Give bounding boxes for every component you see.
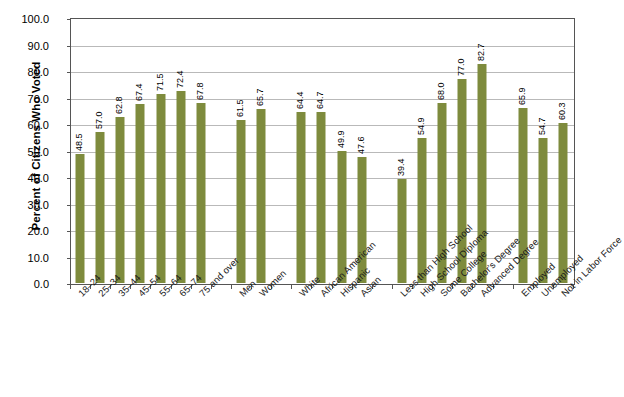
bar[interactable] bbox=[558, 123, 567, 283]
x-tick-mark bbox=[70, 284, 71, 289]
bar-value-label: 48.5 bbox=[74, 134, 84, 152]
bar-slot: 67.4 bbox=[130, 18, 150, 283]
x-tick-mark bbox=[513, 284, 514, 289]
y-tick-label: 90.0 bbox=[1, 40, 49, 52]
bar[interactable] bbox=[116, 117, 125, 283]
bar-value-label: 49.9 bbox=[336, 130, 346, 148]
bar[interactable] bbox=[176, 91, 185, 283]
bar-slot: 62.8 bbox=[110, 18, 130, 283]
bar[interactable] bbox=[418, 138, 427, 283]
bar-value-label: 47.6 bbox=[356, 136, 366, 154]
bar[interactable] bbox=[397, 179, 406, 283]
y-tick-label: 80.0 bbox=[1, 66, 49, 78]
bar-slot: 72.4 bbox=[171, 18, 191, 283]
bar-value-label: 67.4 bbox=[134, 84, 144, 102]
y-tick-label: 60.0 bbox=[1, 119, 49, 131]
bar-value-label: 65.9 bbox=[517, 88, 527, 106]
y-tick-label: 50.0 bbox=[1, 146, 49, 158]
y-tick-label: 30.0 bbox=[1, 199, 49, 211]
bar[interactable] bbox=[297, 112, 306, 283]
bar[interactable] bbox=[156, 94, 165, 283]
bar[interactable] bbox=[317, 112, 326, 283]
bar-value-label: 65.7 bbox=[255, 88, 265, 106]
y-tick-label: 40.0 bbox=[1, 172, 49, 184]
bar-value-label: 71.5 bbox=[155, 73, 165, 91]
bar-slot: 64.7 bbox=[311, 18, 331, 283]
bar-slot: 67.8 bbox=[191, 18, 211, 283]
bar-value-label: 72.4 bbox=[175, 71, 185, 89]
x-tick-mark bbox=[392, 284, 393, 289]
bar-slot: 57.0 bbox=[90, 18, 110, 283]
bar-slot: 64.4 bbox=[291, 18, 311, 283]
bar-slot: 60.3 bbox=[553, 18, 573, 283]
x-axis-labels: 18–2425–3435–4445–5455–6465–7475 and ove… bbox=[70, 291, 588, 397]
bar[interactable] bbox=[257, 109, 266, 283]
x-tick-mark bbox=[231, 284, 232, 289]
bar-value-label: 39.4 bbox=[396, 158, 406, 176]
bar-value-label: 54.7 bbox=[537, 118, 547, 136]
bar-slot: 39.4 bbox=[392, 18, 412, 283]
bar-value-label: 68.0 bbox=[436, 82, 446, 100]
bar-slot: 65.7 bbox=[251, 18, 271, 283]
bar-value-label: 62.8 bbox=[114, 96, 124, 114]
y-tick-label: 0.0 bbox=[1, 278, 49, 290]
bar-slot: 71.5 bbox=[150, 18, 170, 283]
bar[interactable] bbox=[196, 103, 205, 283]
bar-slot: 54.9 bbox=[412, 18, 432, 283]
bar-value-label: 64.4 bbox=[295, 92, 305, 110]
bar-value-label: 60.3 bbox=[557, 103, 567, 121]
bar-value-label: 82.7 bbox=[476, 43, 486, 61]
bar[interactable] bbox=[76, 154, 85, 283]
y-tick-label: 20.0 bbox=[1, 225, 49, 237]
bars-layer: 48.557.062.867.471.572.467.861.565.764.4… bbox=[70, 18, 573, 283]
y-tick-label: 10.0 bbox=[1, 252, 49, 264]
bar-value-label: 57.0 bbox=[94, 111, 104, 129]
y-tick-label: 100.0 bbox=[1, 13, 49, 25]
bar-value-label: 61.5 bbox=[235, 100, 245, 118]
bar[interactable] bbox=[538, 138, 547, 283]
x-tick-mark bbox=[291, 284, 292, 289]
bar-slot: 61.5 bbox=[231, 18, 251, 283]
bar-value-label: 77.0 bbox=[456, 58, 466, 76]
bar-value-label: 64.7 bbox=[315, 91, 325, 109]
bar[interactable] bbox=[96, 132, 105, 283]
bar-slot: 49.9 bbox=[332, 18, 352, 283]
y-tick-label: 70.0 bbox=[1, 93, 49, 105]
bar-value-label: 67.8 bbox=[195, 83, 205, 101]
bar-value-label: 54.9 bbox=[416, 117, 426, 135]
bar-slot: 48.5 bbox=[70, 18, 90, 283]
bar[interactable] bbox=[136, 104, 145, 283]
